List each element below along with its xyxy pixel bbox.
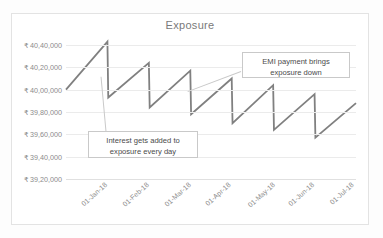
annotation-interest-accrual: Interest gets added to exposure every da…	[88, 131, 198, 158]
x-axis-tick-label: 01-Mar-18	[163, 181, 192, 208]
x-axis-line	[66, 179, 356, 180]
y-axis-tick-label: ₹ 39,40,000	[24, 152, 62, 161]
y-axis-tick-label: ₹ 39,60,000	[24, 130, 62, 139]
y-axis-labels: ₹ 40,40,000₹ 40,20,000₹ 40,00,000₹ 39,80…	[12, 45, 62, 179]
y-axis-tick-label: ₹ 39,80,000	[24, 108, 62, 117]
x-axis-tick-label: 01-Feb-18	[122, 181, 151, 208]
x-axis-labels: 01-Jan-1801-Feb-1801-Mar-1801-Apr-1801-M…	[66, 181, 356, 223]
chart-container: Exposure ₹ 40,40,000₹ 40,20,000₹ 40,00,0…	[11, 13, 369, 225]
gridline	[66, 112, 356, 113]
x-axis-tick-label: 01-Apr-18	[204, 181, 232, 207]
x-axis-tick-label: 01-Jun-18	[287, 181, 315, 207]
annotation-emi-payment: EMI payment brings exposure down	[242, 52, 350, 78]
chart-title: Exposure	[12, 19, 368, 31]
y-axis-tick-label: ₹ 39,20,000	[24, 175, 62, 184]
x-axis-tick-label: 01-Jan-18	[80, 181, 108, 207]
y-axis-tick-label: ₹ 40,20,000	[24, 63, 62, 72]
gridline	[66, 45, 356, 46]
y-axis-tick-label: ₹ 40,00,000	[24, 85, 62, 94]
x-axis-tick-label: 01-Jul-18	[328, 181, 354, 206]
y-axis-tick-label: ₹ 40,40,000	[24, 41, 62, 50]
gridline	[66, 90, 356, 91]
x-axis-tick-label: 01-May-18	[246, 181, 276, 209]
